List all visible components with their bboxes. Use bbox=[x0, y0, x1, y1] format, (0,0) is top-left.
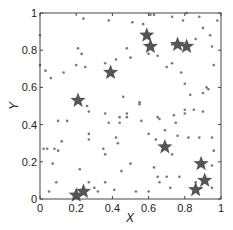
data-point bbox=[113, 188, 116, 191]
data-point bbox=[126, 116, 129, 119]
data-point bbox=[198, 15, 201, 18]
data-point bbox=[55, 181, 58, 184]
y-tick-label: 1 bbox=[31, 7, 37, 19]
data-point bbox=[216, 19, 219, 22]
data-point bbox=[80, 53, 83, 56]
scatter-chart: 00.20.40.60.81 00.20.40.60.81 X Y bbox=[0, 0, 233, 230]
data-point bbox=[178, 175, 181, 178]
data-point bbox=[209, 34, 212, 37]
y-tick-label: 0.8 bbox=[22, 44, 37, 56]
data-point bbox=[202, 27, 205, 30]
data-point bbox=[104, 181, 107, 184]
data-point bbox=[88, 133, 91, 136]
data-point bbox=[51, 162, 54, 165]
data-point bbox=[86, 105, 89, 108]
data-point bbox=[174, 121, 177, 124]
data-point bbox=[88, 110, 91, 113]
data-point bbox=[156, 116, 159, 119]
data-point bbox=[169, 187, 172, 190]
data-point bbox=[66, 120, 69, 123]
data-point bbox=[131, 21, 134, 24]
data-point bbox=[115, 58, 118, 61]
star-icon bbox=[139, 27, 154, 41]
x-tick-label: 0.2 bbox=[69, 202, 84, 214]
data-point bbox=[126, 47, 129, 50]
data-point bbox=[147, 190, 150, 193]
data-point bbox=[180, 71, 183, 74]
data-point bbox=[165, 175, 168, 178]
x-tick-label: 0.8 bbox=[177, 202, 192, 214]
x-tick-label: 0.6 bbox=[141, 202, 156, 214]
data-point bbox=[57, 120, 60, 123]
data-point bbox=[189, 94, 192, 97]
data-point bbox=[212, 149, 215, 152]
y-tick-label: 0.6 bbox=[22, 81, 37, 93]
data-point bbox=[120, 170, 123, 173]
data-point bbox=[135, 190, 138, 193]
data-point bbox=[140, 120, 143, 123]
data-point bbox=[165, 66, 168, 69]
data-point bbox=[184, 112, 187, 115]
data-point bbox=[118, 116, 121, 119]
x-tick-label: 0 bbox=[37, 202, 43, 214]
data-point bbox=[102, 147, 105, 150]
data-point bbox=[156, 175, 159, 178]
data-point bbox=[156, 54, 159, 57]
data-point bbox=[46, 147, 49, 150]
plot-frame bbox=[40, 13, 221, 199]
data-point bbox=[60, 140, 63, 143]
data-point bbox=[79, 168, 82, 171]
data-point bbox=[147, 53, 150, 56]
data-point bbox=[211, 187, 214, 190]
data-point bbox=[158, 181, 161, 184]
y-axis-ticks: 00.20.40.60.81 bbox=[22, 7, 221, 205]
x-tick-label: 1 bbox=[218, 202, 224, 214]
data-point bbox=[212, 64, 215, 67]
data-point bbox=[53, 147, 56, 150]
data-point bbox=[107, 19, 110, 22]
star-icon bbox=[70, 92, 85, 106]
data-point bbox=[153, 166, 156, 169]
data-point bbox=[104, 153, 107, 156]
data-point bbox=[155, 138, 158, 141]
data-point bbox=[142, 23, 145, 26]
data-point bbox=[158, 118, 161, 121]
star-icon bbox=[143, 38, 158, 52]
data-point bbox=[182, 19, 185, 22]
data-point bbox=[149, 14, 152, 17]
data-point bbox=[42, 147, 45, 150]
star-icon bbox=[157, 139, 172, 153]
data-point bbox=[50, 77, 53, 80]
data-point bbox=[104, 62, 107, 65]
star-icon bbox=[103, 65, 118, 79]
data-point bbox=[75, 64, 78, 67]
x-axis-label: X bbox=[125, 211, 135, 225]
data-point bbox=[126, 112, 129, 115]
data-point bbox=[164, 129, 167, 132]
data-point bbox=[117, 142, 120, 145]
data-point bbox=[118, 121, 121, 124]
data-point bbox=[62, 71, 65, 74]
data-point bbox=[115, 136, 118, 139]
data-point bbox=[153, 14, 156, 17]
data-point bbox=[129, 56, 132, 59]
data-point bbox=[57, 149, 60, 152]
data-point bbox=[84, 66, 87, 69]
scatter-points bbox=[39, 12, 219, 193]
star-icon bbox=[179, 38, 194, 52]
data-point bbox=[211, 164, 214, 167]
data-point bbox=[138, 103, 141, 106]
data-point bbox=[77, 47, 80, 50]
data-point bbox=[193, 108, 196, 111]
data-point bbox=[93, 187, 96, 190]
data-point bbox=[122, 95, 125, 98]
data-point bbox=[171, 15, 174, 18]
data-point bbox=[202, 92, 205, 95]
data-point bbox=[48, 190, 51, 193]
data-point bbox=[171, 153, 174, 156]
y-axis-label: Y bbox=[7, 101, 21, 110]
data-point bbox=[88, 138, 91, 141]
data-point bbox=[202, 110, 205, 113]
data-point bbox=[184, 82, 187, 85]
data-point bbox=[129, 162, 132, 165]
